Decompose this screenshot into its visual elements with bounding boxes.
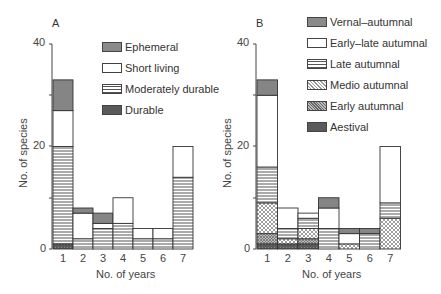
swatch-grey-icon <box>102 42 122 52</box>
panel-b-letter: B <box>256 17 263 29</box>
bar-segment <box>298 244 319 249</box>
legend-item-vernal-autumnal: Vernal–autumnal <box>307 15 427 29</box>
bar-segment <box>173 147 193 178</box>
swatch-dark-icon <box>307 122 327 132</box>
panel-a-letter: A <box>52 17 59 29</box>
bar-segment <box>298 239 319 244</box>
bar-segment <box>153 239 173 249</box>
panel-b-ytick-40: 40 <box>237 36 249 48</box>
swatch-white-icon <box>307 38 327 48</box>
bar-segment <box>319 229 340 250</box>
swatch-crosshatch-icon <box>307 80 327 90</box>
bar-segment <box>380 147 401 203</box>
bar-segment <box>278 229 299 239</box>
bar-segment <box>53 244 73 249</box>
bar-segment <box>360 229 381 234</box>
bar-segment <box>298 229 319 239</box>
bar-segment <box>93 223 113 228</box>
panel-a-ylabel: No. of species <box>17 118 29 188</box>
x-tick-label: 5 <box>339 252 360 264</box>
bar-segment <box>278 239 299 244</box>
swatch-lines-icon <box>307 59 327 69</box>
swatch-lines-icon <box>102 84 122 94</box>
bar-segment <box>298 213 319 218</box>
panel-a-xlabel: No. of years <box>96 268 155 280</box>
panel-b-ytick-0: 0 <box>244 242 250 254</box>
panel-a-ytick-0: 0 <box>40 242 46 254</box>
bar-segment <box>73 239 93 249</box>
x-tick-label: 6 <box>153 252 173 264</box>
bar-segment <box>257 244 278 249</box>
bar-segment <box>133 229 153 239</box>
bar-segment <box>53 147 73 244</box>
bar-segment <box>257 203 278 234</box>
bar-segment <box>257 80 278 95</box>
legend-item-short-living: Short living <box>102 61 219 75</box>
bar-segment <box>113 223 133 249</box>
bar-segment <box>73 208 93 213</box>
panel-a-legend: Ephemeral Short living Moderately durabl… <box>102 40 219 117</box>
bar-segment <box>380 203 401 218</box>
bar-segment <box>257 95 278 167</box>
bar-segment <box>380 218 401 249</box>
bar-segment <box>257 234 278 244</box>
x-tick-label: 7 <box>380 252 401 264</box>
legend-item-ephemeral: Ephemeral <box>102 40 219 54</box>
legend-item-late-autumnal: Late autumnal <box>307 57 427 71</box>
x-tick-label: 2 <box>278 252 299 264</box>
bar-segment <box>257 167 278 203</box>
x-tick-label: 1 <box>53 252 73 264</box>
x-tick-label: 7 <box>173 252 193 264</box>
panel-b-xlabel: No. of years <box>302 268 361 280</box>
bar-segment <box>73 213 93 239</box>
x-tick-label: 5 <box>133 252 153 264</box>
x-tick-label: 1 <box>257 252 278 264</box>
bar-segment <box>133 239 153 249</box>
bar-segment <box>113 198 133 224</box>
bar-segment <box>298 218 319 228</box>
legend-item-early-autumnal: Early autumnal <box>307 99 427 113</box>
legend-item-early-late-autumnal: Early–late autumnal <box>307 36 427 50</box>
panel-a-ytick-40: 40 <box>33 36 45 48</box>
panel-b-ylabel: No. of species <box>221 118 233 188</box>
bar-segment <box>93 213 113 223</box>
x-tick-label: 3 <box>298 252 319 264</box>
x-tick-label: 4 <box>113 252 133 264</box>
swatch-white-icon <box>102 63 122 73</box>
swatch-dense-crosshatch-icon <box>307 101 327 111</box>
bar-segment <box>319 198 340 208</box>
bar-segment <box>339 229 360 234</box>
panel-a-ytick-20: 20 <box>33 139 45 151</box>
x-tick-label: 2 <box>73 252 93 264</box>
legend-item-medio-autumnal: Medio autumnal <box>307 78 427 92</box>
x-tick-label: 3 <box>93 252 113 264</box>
bar-segment <box>153 229 173 239</box>
bar-segment <box>339 244 360 249</box>
bar-segment <box>319 208 340 229</box>
bar-segment <box>278 244 299 249</box>
x-tick-label: 6 <box>360 252 381 264</box>
panel-b-legend: Vernal–autumnal Early–late autumnal Late… <box>307 15 427 134</box>
swatch-grey-icon <box>307 17 327 27</box>
bar-segment <box>339 234 360 244</box>
bar-segment <box>53 80 73 111</box>
x-tick-label: 4 <box>319 252 340 264</box>
bar-segment <box>173 177 193 249</box>
bar-segment <box>53 111 73 147</box>
legend-item-moderately-durable: Moderately durable <box>102 82 219 96</box>
panel-b-ytick-20: 20 <box>237 139 249 151</box>
bar-segment <box>360 234 381 249</box>
swatch-dark-icon <box>102 105 122 115</box>
bar-segment <box>93 229 113 250</box>
bar-segment <box>278 208 299 229</box>
legend-item-aestival: Aestival <box>307 120 427 134</box>
legend-item-durable: Durable <box>102 103 219 117</box>
